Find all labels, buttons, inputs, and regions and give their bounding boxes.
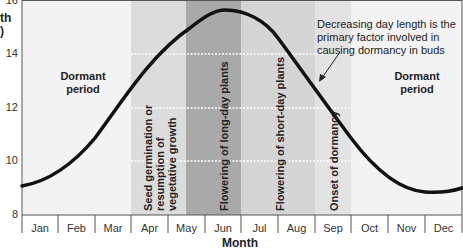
label-long-day: Flowering of long-day plants xyxy=(218,61,230,211)
label-seed-germination: Seed germination or resumption of vegeta… xyxy=(142,105,178,211)
month-jun: Jun xyxy=(205,218,241,238)
seed-line2: resumption of xyxy=(154,105,166,211)
dormant-left-line1: Dormant xyxy=(48,70,118,83)
dormant-period-left: Dormant period xyxy=(48,70,118,96)
label-short-day: Flowering of short-day plants xyxy=(274,57,286,211)
ytick-10: 10 xyxy=(0,154,18,166)
month-nov: Nov xyxy=(388,218,425,238)
month-may: May xyxy=(168,218,205,238)
x-axis-label: Month xyxy=(200,236,280,250)
y-axis-label: th ) xyxy=(0,12,11,38)
month-sep: Sep xyxy=(315,218,351,238)
y-axis-label-line2: ) xyxy=(0,25,11,38)
ytick-12: 12 xyxy=(0,101,18,113)
dormant-left-line2: period xyxy=(48,83,118,96)
month-jul: Jul xyxy=(241,218,278,238)
dormant-right-line1: Dormant xyxy=(382,70,452,83)
month-dec: Dec xyxy=(425,218,462,238)
annotation-line1: Decreasing day length is the xyxy=(317,18,456,31)
month-aug: Aug xyxy=(278,218,315,238)
month-apr: Apr xyxy=(131,218,168,238)
seed-line1: Seed germination or xyxy=(142,105,154,211)
label-onset-dormancy: Onset of dormancy xyxy=(328,111,340,211)
ytick-14: 14 xyxy=(0,47,18,59)
annotation-text: Decreasing day length is the primary fac… xyxy=(317,18,456,57)
month-jan: Jan xyxy=(22,218,58,238)
ytick-8: 8 xyxy=(0,208,18,220)
seed-line3: vegetative growth xyxy=(166,105,178,211)
month-mar: Mar xyxy=(95,218,131,238)
dormant-period-right: Dormant period xyxy=(382,70,452,96)
annotation-line3: causing dormancy in buds xyxy=(317,44,456,57)
dormant-right-line2: period xyxy=(382,83,452,96)
month-oct: Oct xyxy=(351,218,388,238)
annotation-line2: primary factor involved in xyxy=(317,31,456,44)
ytick-16: 16 xyxy=(0,0,18,6)
month-feb: Feb xyxy=(58,218,95,238)
